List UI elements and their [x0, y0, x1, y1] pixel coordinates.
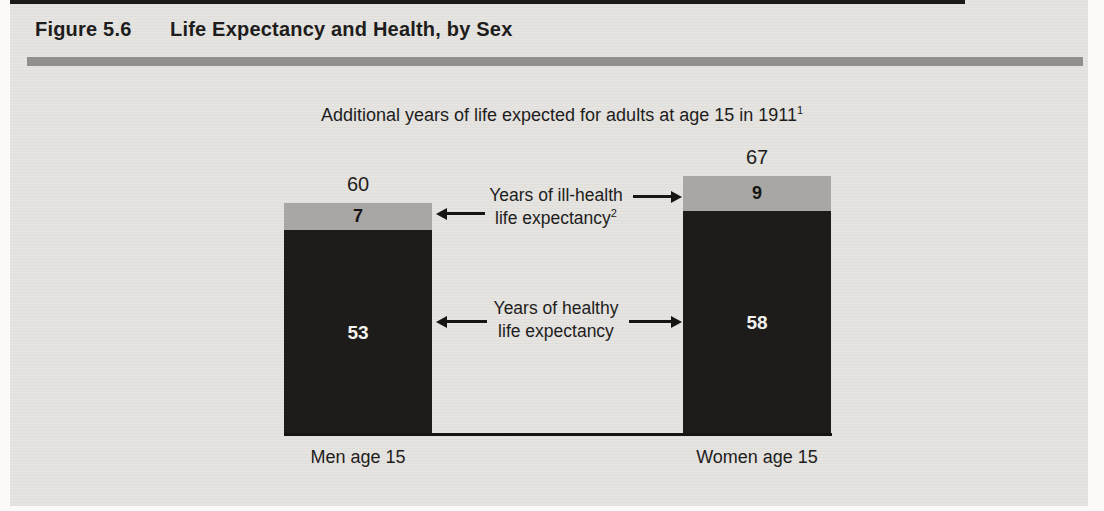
- chart-subtitle-text: Additional years of life expected for ad…: [321, 105, 797, 125]
- category-label-women: Women age 15: [683, 447, 831, 468]
- arrow-right-ill-health-icon: [633, 195, 671, 198]
- bar-men: 60 7 53: [284, 203, 432, 435]
- bar-men-healthy-value: 53: [347, 322, 368, 344]
- annotation-ill-health-footnote-marker: 2: [611, 207, 617, 219]
- bar-men-total-label: 60: [284, 173, 432, 196]
- bar-men-healthy-segment: 53: [284, 230, 432, 435]
- bar-men-ill-health-segment: 7: [284, 203, 432, 230]
- bar-women-ill-health-value: 9: [752, 183, 762, 204]
- subtitle-footnote-marker: 1: [797, 104, 803, 116]
- figure-panel: Figure 5.6 Life Expectancy and Health, b…: [10, 0, 1088, 506]
- arrow-left-healthy-icon: [447, 320, 487, 323]
- annotation-ill-health: Years of ill-health life expectancy2: [456, 184, 656, 230]
- bar-women-healthy-value: 58: [746, 312, 767, 334]
- chart-subtitle: Additional years of life expected for ad…: [192, 105, 932, 126]
- arrow-left-ill-health-icon: [447, 212, 485, 215]
- arrow-right-healthy-icon: [629, 320, 671, 323]
- bar-women-total-label: 67: [683, 146, 831, 169]
- baseline-axis: [284, 433, 832, 436]
- annotation-ill-health-line1: Years of ill-health: [456, 184, 656, 207]
- figure-title: Life Expectancy and Health, by Sex: [170, 18, 512, 41]
- header-rule-divider: [27, 57, 1083, 66]
- top-rule-divider: [10, 0, 965, 4]
- category-label-men: Men age 15: [284, 447, 432, 468]
- bar-men-ill-health-value: 7: [353, 206, 363, 227]
- annotation-healthy-line2: life expectancy: [456, 320, 656, 343]
- bar-women: 67 9 58: [683, 176, 831, 435]
- bar-women-ill-health-segment: 9: [683, 176, 831, 211]
- annotation-ill-health-line2: life expectancy2: [456, 207, 656, 230]
- annotation-healthy-line1: Years of healthy: [456, 297, 656, 320]
- figure-number-label: Figure 5.6: [35, 18, 131, 41]
- bar-women-healthy-segment: 58: [683, 211, 831, 435]
- annotation-ill-health-line2-text: life expectancy: [495, 208, 611, 228]
